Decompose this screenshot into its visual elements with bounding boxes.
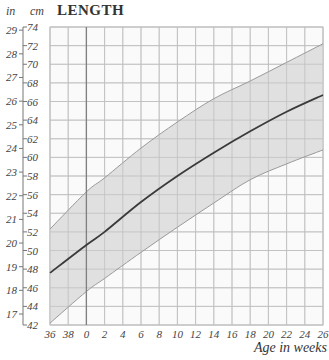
svg-text:18: 18 — [6, 284, 18, 296]
svg-text:24: 24 — [6, 142, 18, 154]
svg-text:4: 4 — [120, 328, 126, 340]
svg-text:24: 24 — [299, 328, 311, 340]
svg-text:64: 64 — [27, 114, 39, 126]
svg-text:29: 29 — [6, 24, 18, 36]
svg-text:50: 50 — [27, 245, 39, 257]
svg-text:21: 21 — [6, 213, 17, 225]
svg-text:74: 74 — [27, 21, 39, 33]
svg-text:68: 68 — [27, 77, 39, 89]
svg-text:17: 17 — [6, 308, 18, 320]
svg-text:52: 52 — [27, 226, 39, 238]
svg-text:60: 60 — [27, 151, 39, 163]
svg-text:18: 18 — [245, 328, 257, 340]
svg-text:26: 26 — [6, 95, 18, 107]
svg-text:62: 62 — [27, 133, 39, 145]
svg-text:27: 27 — [6, 71, 18, 83]
svg-text:0: 0 — [84, 328, 90, 340]
svg-text:19: 19 — [6, 261, 18, 273]
svg-text:44: 44 — [27, 300, 39, 312]
svg-text:28: 28 — [6, 48, 18, 60]
svg-text:10: 10 — [172, 328, 184, 340]
svg-text:12: 12 — [190, 328, 202, 340]
svg-text:22: 22 — [6, 190, 18, 202]
svg-text:66: 66 — [27, 96, 39, 108]
svg-text:26: 26 — [318, 328, 329, 340]
svg-text:14: 14 — [208, 328, 220, 340]
svg-text:25: 25 — [6, 119, 18, 131]
y-axis: 4244464850525456586062646668707274171819… — [6, 21, 39, 331]
svg-text:72: 72 — [27, 40, 39, 52]
svg-text:42: 42 — [27, 319, 39, 331]
svg-text:70: 70 — [27, 58, 39, 70]
svg-text:48: 48 — [27, 263, 39, 275]
svg-text:20: 20 — [263, 328, 275, 340]
svg-text:38: 38 — [62, 328, 75, 340]
svg-text:46: 46 — [27, 282, 39, 294]
svg-text:6: 6 — [138, 328, 144, 340]
svg-text:2: 2 — [102, 328, 108, 340]
svg-text:58: 58 — [27, 170, 39, 182]
svg-text:56: 56 — [27, 189, 39, 201]
svg-text:54: 54 — [27, 207, 39, 219]
length-growth-chart: 4244464850525456586062646668707274171819… — [0, 0, 329, 360]
svg-text:16: 16 — [227, 328, 239, 340]
svg-text:22: 22 — [281, 328, 293, 340]
svg-text:20: 20 — [6, 237, 18, 249]
x-axis: 363802468101214161820222426 — [44, 328, 329, 340]
svg-text:23: 23 — [6, 166, 18, 178]
svg-text:8: 8 — [156, 328, 162, 340]
svg-text:36: 36 — [44, 328, 57, 340]
